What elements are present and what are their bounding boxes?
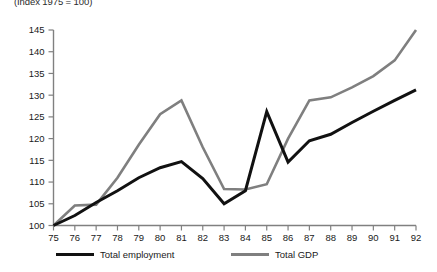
x-axis-tick-label: 83 [219,232,230,243]
y-axis-tick-label: 125 [29,111,45,122]
y-axis-tick-label: 110 [29,176,44,187]
legend-entry-total-gdp: Total GDP [231,250,318,260]
x-axis-tick-label: 87 [304,232,315,243]
y-axis-tick-labels: 100105110115120125130135140145 [29,24,45,231]
x-axis-tick-label: 92 [411,232,422,243]
x-axis-tick-label: 84 [240,232,251,243]
x-axis-tick-label: 78 [112,232,123,243]
y-axis-tick-label: 135 [29,68,45,79]
x-axis-tick-label: 85 [261,232,272,243]
legend-entry-total-employment: Total employment [56,250,174,260]
y-axis-tick-label: 100 [29,220,45,231]
x-axis-tick-label: 76 [70,232,81,243]
x-axis-tick-label: 91 [389,232,400,243]
plot-area: 100105110115120125130135140145 757677787… [0,0,437,250]
x-axis-tick-label: 86 [283,232,294,243]
y-axis-tick-label: 130 [29,90,45,101]
x-axis-tick-label: 81 [176,232,187,243]
x-axis-tick-label: 79 [134,232,145,243]
y-axis-tick-label: 115 [29,155,44,166]
legend-label: Total employment [100,250,174,260]
legend-swatch-icon [56,253,94,256]
x-axis-tick-label: 80 [155,232,166,243]
chart-container: (Index 1975 = 100) 100105110115120125130… [0,0,437,272]
x-axis-tick-label: 89 [347,232,358,243]
y-axis-tick-label: 145 [29,24,45,35]
legend-swatch-icon [231,253,269,256]
chart-legend: Total employment Total GDP [0,246,437,272]
legend-label: Total GDP [275,250,318,260]
y-axis-tick-label: 140 [29,46,45,57]
x-axis-tick-label: 75 [48,232,59,243]
series-lines [54,30,417,226]
series-line [54,90,417,226]
x-axis-tick-label: 88 [325,232,336,243]
x-axis-tick-labels: 757677787980818283848586878889909192 [48,232,421,243]
x-axis-tick-label: 82 [197,232,208,243]
y-axis-ticks [49,30,54,226]
y-axis-tick-label: 105 [29,198,45,209]
y-axis-tick-label: 120 [29,133,45,144]
x-axis-tick-label: 77 [91,232,102,243]
x-axis-tick-label: 90 [368,232,379,243]
